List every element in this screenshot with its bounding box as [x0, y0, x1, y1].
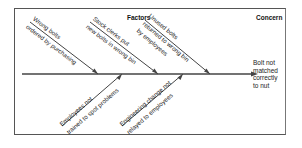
concern-header: Concern: [256, 14, 282, 21]
bone-arrow-icon: [92, 69, 98, 75]
concern-text: Bolt not matched correctly to nut: [253, 59, 278, 89]
bone-arrow-icon: [178, 74, 184, 80]
bone-arrow-icon: [152, 69, 158, 75]
bone-arrow-icon: [117, 74, 123, 80]
